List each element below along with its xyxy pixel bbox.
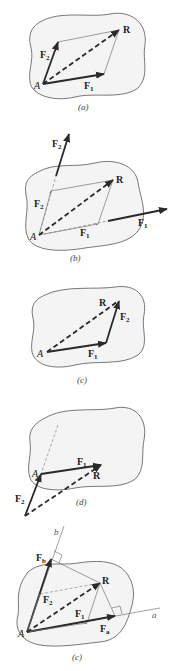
r-label: R: [116, 174, 124, 185]
caption-e: (c): [72, 652, 82, 662]
caption-b: (b): [70, 253, 81, 263]
r-label: R: [123, 24, 131, 35]
point-a-label: A: [17, 628, 25, 639]
panel-d: A F1 F2 R (d): [15, 407, 145, 516]
caption-d: (d): [76, 497, 87, 507]
r-label: R: [93, 470, 101, 481]
caption-c: (c): [77, 375, 87, 385]
f2-label: F2: [15, 493, 25, 506]
axis-a-label: a: [152, 610, 157, 620]
f2-label: F2: [52, 138, 62, 151]
panel-a: A F1 F2 R (a): [30, 13, 146, 112]
panel-e: A F1 F2 Fa Fb R a b (c): [17, 526, 160, 662]
body-outline: [29, 407, 145, 490]
caption-a: (a): [78, 102, 89, 112]
panel-c: A F1 F2 R (c): [32, 287, 145, 385]
point-a-label: A: [29, 231, 37, 242]
point-a-label: A: [36, 348, 44, 359]
point-a-label: A: [31, 468, 39, 479]
axis-b-label: b: [54, 527, 59, 537]
fb-label: Fb: [36, 552, 46, 565]
body-outline: [17, 561, 134, 646]
vector-addition-figure: A F1 F2 R (a) A F1 F1 F2 F2 R (b) A F1 F…: [0, 0, 170, 671]
r-label: R: [102, 575, 110, 586]
panel-b: A F1 F1 F2 F2 R (b): [26, 134, 168, 263]
point-a-label: A: [33, 80, 41, 91]
r-label: R: [99, 297, 107, 308]
